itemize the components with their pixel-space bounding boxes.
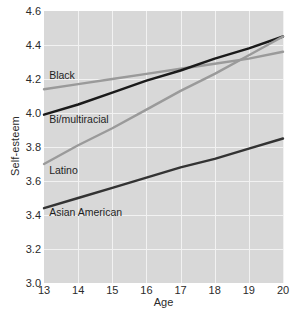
series-label: Asian American [49, 207, 122, 218]
y-axis-tick-label: 3.4 [1, 210, 41, 221]
x-axis-tick-label: 20 [268, 285, 298, 296]
x-axis-tick-label: 17 [166, 285, 196, 296]
series-line [44, 139, 283, 209]
x-axis-tick-label: 18 [200, 285, 230, 296]
series-line [44, 37, 283, 165]
x-axis-tick-label: 14 [63, 285, 93, 296]
y-axis-tick-label: 4.2 [1, 74, 41, 85]
series-label: Bi/multiracial [49, 114, 109, 125]
y-axis-tick-label: 3.8 [1, 142, 41, 153]
x-axis-tick-label: 19 [234, 285, 264, 296]
series-label: Latino [49, 165, 78, 176]
x-axis-tick-label: 15 [97, 285, 127, 296]
x-axis-tick-label: 16 [131, 285, 161, 296]
series-label: Black [49, 70, 75, 81]
series-line [44, 37, 283, 115]
x-axis-tick-label: 13 [29, 285, 59, 296]
y-axis-tick-labels: 4.64.44.24.03.83.63.43.23.0 [0, 11, 41, 283]
y-axis-tick-label: 3.2 [1, 244, 41, 255]
y-axis-tick-label: 4.0 [1, 108, 41, 119]
y-axis-tick-label: 3.6 [1, 176, 41, 187]
series-lines [44, 11, 283, 283]
plot-area: BlackBi/multiracialLatinoAsian American [44, 11, 283, 283]
self-esteem-by-age-chart: Self-esteem 4.64.44.24.03.83.63.43.23.0 … [0, 0, 298, 315]
x-axis-title: Age [44, 296, 283, 308]
y-axis-tick-label: 4.6 [1, 6, 41, 17]
y-axis-tick-label: 4.4 [1, 40, 41, 51]
